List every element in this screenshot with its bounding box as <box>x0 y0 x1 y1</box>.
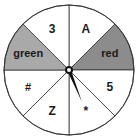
spinner-hub-center <box>67 68 71 72</box>
sector-label: # <box>25 81 31 93</box>
sector-label: green <box>13 47 43 59</box>
sector-label: 5 <box>106 80 113 94</box>
sector-label: 3 <box>49 22 56 36</box>
sector-label: Z <box>48 104 55 118</box>
sector-label: A <box>82 22 91 36</box>
spinner-diagram: Ared5*Z#green3 <box>0 0 138 139</box>
sector-label: red <box>101 47 118 59</box>
sector-label: * <box>84 104 89 118</box>
